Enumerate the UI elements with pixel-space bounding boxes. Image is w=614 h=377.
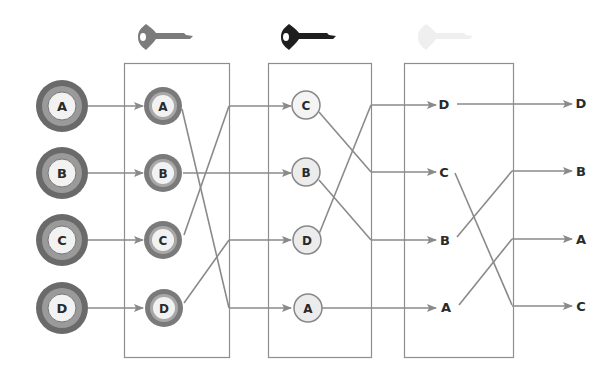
stage-2-nodes: C B D A xyxy=(292,91,322,322)
stage-1-node: B xyxy=(144,154,182,192)
stage-3-labels: D C B A xyxy=(439,97,451,315)
stage-2-node: C xyxy=(292,91,320,119)
key-icon xyxy=(138,24,193,50)
input-nodes: A B C D xyxy=(36,80,88,334)
svg-text:C: C xyxy=(302,99,311,113)
input-node: C xyxy=(36,214,88,266)
svg-text:D: D xyxy=(302,234,312,248)
stage-1-node: D xyxy=(145,289,183,327)
input-label: D xyxy=(57,301,68,316)
input-label: A xyxy=(57,99,67,114)
stage-2-node: A xyxy=(294,294,322,322)
input-label: C xyxy=(57,233,67,248)
svg-text:D: D xyxy=(576,96,587,111)
svg-text:C: C xyxy=(159,234,168,248)
stage-2-node: D xyxy=(293,226,321,254)
input-node: A xyxy=(36,80,88,132)
stage-1-node: A xyxy=(144,87,182,125)
svg-text:C: C xyxy=(576,299,586,314)
key-icon xyxy=(418,24,473,50)
svg-text:B: B xyxy=(440,233,450,248)
svg-text:A: A xyxy=(576,232,586,247)
svg-text:B: B xyxy=(576,164,586,179)
svg-text:B: B xyxy=(301,166,310,180)
permutation-diagram: A B C D A B C D C B D xyxy=(0,0,614,377)
svg-text:A: A xyxy=(441,300,451,315)
stage-1-nodes: A B C D xyxy=(144,87,183,327)
input-label: B xyxy=(57,166,67,181)
stage-2-node: B xyxy=(292,158,320,186)
final-output-labels: D B A C xyxy=(576,96,587,314)
svg-text:A: A xyxy=(158,100,168,114)
stage-1-node: C xyxy=(144,221,182,259)
svg-text:D: D xyxy=(159,302,169,316)
svg-text:D: D xyxy=(439,97,450,112)
svg-text:A: A xyxy=(303,302,313,316)
svg-text:B: B xyxy=(158,167,167,181)
input-node: D xyxy=(36,282,88,334)
svg-text:C: C xyxy=(439,165,449,180)
input-node: B xyxy=(36,147,88,199)
stage-3-box xyxy=(405,64,514,358)
key-icon xyxy=(281,24,336,50)
